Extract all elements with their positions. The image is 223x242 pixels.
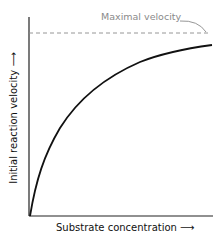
y-axis-label: Initial reaction velocity ⟶ bbox=[8, 52, 19, 183]
velocity-curve bbox=[30, 45, 212, 216]
saturation-diagram bbox=[0, 0, 223, 242]
max-velocity-label: Maximal velocity bbox=[101, 11, 181, 22]
leader-line bbox=[180, 21, 206, 32]
x-axis-label: Substrate concentration ⟶ bbox=[56, 222, 194, 233]
